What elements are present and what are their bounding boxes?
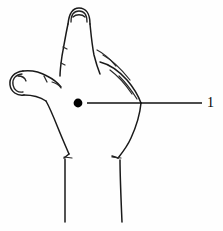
acupoint-label-1: 1: [207, 96, 214, 110]
index-fingernail-lunula: [73, 15, 85, 17]
hand-illustration: [0, 0, 223, 231]
wrist-tick-right: [112, 157, 121, 158]
folded-middle-finger: [100, 62, 141, 103]
acupoint-marker-1: [74, 99, 83, 108]
palm-right-edge: [118, 103, 141, 158]
palm-left-edge: [46, 101, 69, 154]
thumb-upper-edge: [23, 71, 61, 87]
thumbnail-lunula: [18, 76, 26, 81]
forearm-right-edge: [120, 160, 122, 222]
thumb-joint-crease: [44, 76, 47, 82]
index-finger-right-edge: [90, 24, 100, 74]
thumb-lower-edge: [24, 95, 46, 101]
hand-acupoint-figure: 1: [0, 0, 223, 231]
index-finger-left-edge: [60, 24, 68, 76]
